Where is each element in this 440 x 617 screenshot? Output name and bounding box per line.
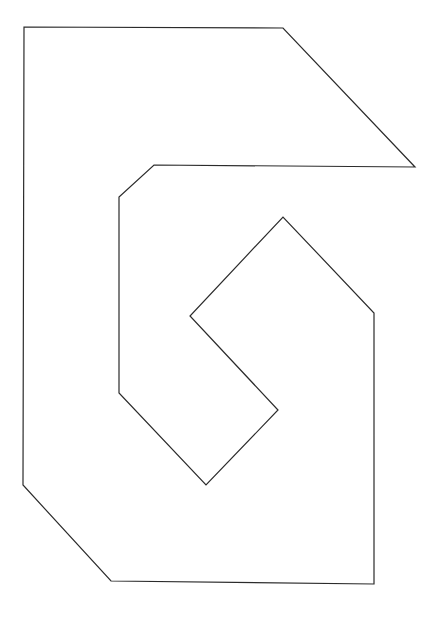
polygon-outline-figure bbox=[0, 0, 440, 617]
figure-canvas bbox=[0, 0, 440, 617]
